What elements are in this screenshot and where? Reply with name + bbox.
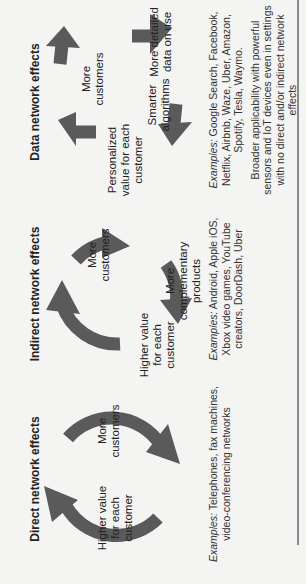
- column-data-network-effects: Data network effects Personalized value …: [0, 0, 306, 204]
- examples-label: Examples:: [207, 513, 219, 562]
- node-line: More: [86, 220, 99, 290]
- node-line: Higher value: [96, 478, 109, 558]
- bottom-rule: [297, 0, 299, 545]
- node-line: customer: [132, 120, 145, 200]
- arrowhead-icon: [46, 26, 80, 48]
- node-higher-value: Higher value for each customer: [96, 478, 135, 558]
- arrowhead-icon: [58, 112, 76, 146]
- node-more-customers: More customers: [86, 220, 112, 290]
- column-indirect-network-effects: Indirect network effects Higher value fo…: [0, 204, 306, 384]
- column-direct-network-effects: Direct network effects More customers Hi…: [0, 374, 306, 584]
- arc-arrow-icon: [60, 44, 62, 64]
- node-line: More: [96, 396, 109, 466]
- node-line: complementary: [177, 236, 190, 326]
- node-line: More: [164, 236, 177, 326]
- arc-arrow-icon: [174, 104, 176, 124]
- applicability-note: Broader applicability with powerful sens…: [249, 2, 299, 198]
- node-line: Personalized: [106, 120, 119, 200]
- examples-text: Examples: Google Search, Facebook, Netfl…: [207, 2, 303, 198]
- node-personalized-value: Personalized value for each customer: [106, 120, 145, 200]
- arrowhead-icon: [46, 280, 80, 314]
- node-more-customers: More customers: [96, 396, 122, 466]
- node-complementary-products: More complementary products: [164, 236, 203, 326]
- node-line: products: [190, 236, 203, 326]
- node-line: value for each: [119, 120, 132, 200]
- node-line: customers: [93, 44, 106, 114]
- examples-text: Examples: Android, Apple iOS, Xbox video…: [207, 214, 249, 364]
- node-smarter-algorithms: Smarter algorithms: [146, 70, 172, 140]
- node-line: customers: [99, 220, 112, 290]
- node-line: for each: [109, 478, 122, 558]
- node-line: customer: [122, 478, 135, 558]
- examples-label: Examples:: [207, 139, 219, 188]
- examples-label: Examples:: [207, 311, 219, 360]
- node-line: for each: [151, 310, 164, 380]
- node-more-customers: More customers: [80, 44, 106, 114]
- examples-text: Examples: Telephones, fax machines, vide…: [207, 384, 236, 564]
- node-line: customers: [109, 396, 122, 466]
- node-line: algorithms: [159, 70, 172, 140]
- node-line: Higher value: [138, 310, 151, 380]
- node-line: Smarter: [146, 70, 159, 140]
- node-line: More: [80, 44, 93, 114]
- network-effects-figure: Direct network effects More customers Hi…: [0, 0, 306, 584]
